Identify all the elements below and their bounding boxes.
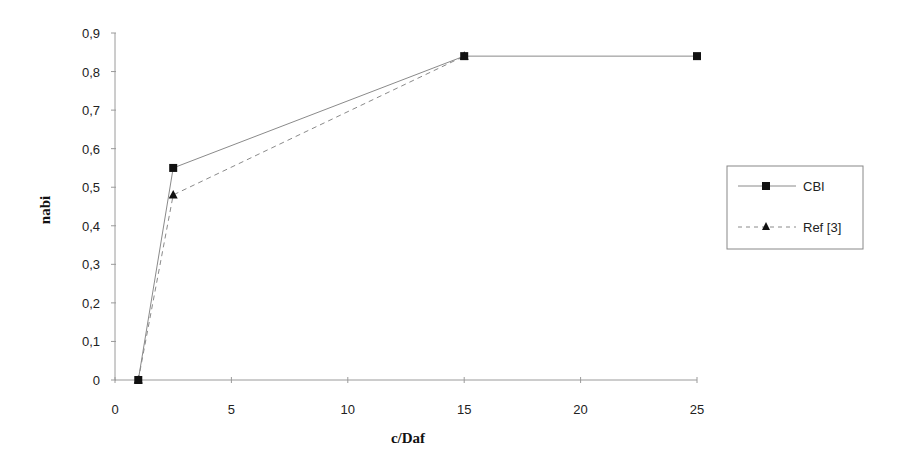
x-axis-title: c/Daf xyxy=(391,430,426,446)
x-axis: 0510152025 xyxy=(111,377,704,417)
y-tick-label: 0,9 xyxy=(82,26,100,41)
x-tick-label: 5 xyxy=(228,402,235,417)
y-tick-label: 0,2 xyxy=(82,296,100,311)
y-axis: 00,10,20,30,40,50,60,70,80,9 xyxy=(82,26,116,388)
y-tick-label: 0 xyxy=(93,373,100,388)
triangle-marker-icon xyxy=(169,190,178,199)
y-tick-label: 0,8 xyxy=(82,65,100,80)
y-tick-label: 0,1 xyxy=(82,334,100,349)
x-tick-label: 20 xyxy=(573,402,587,417)
series-line xyxy=(138,56,697,380)
x-tick-label: 15 xyxy=(457,402,471,417)
square-marker-icon xyxy=(134,376,142,384)
x-tick-label: 0 xyxy=(111,402,118,417)
x-tick-label: 10 xyxy=(341,402,355,417)
series-layer xyxy=(134,51,701,384)
square-marker-icon xyxy=(693,52,701,60)
series-line xyxy=(138,56,464,380)
square-marker-icon xyxy=(169,164,177,172)
square-marker-icon xyxy=(762,182,770,190)
legend-label-ref3: Ref [3] xyxy=(803,220,841,235)
legend-box xyxy=(727,166,863,249)
y-tick-label: 0,5 xyxy=(82,180,100,195)
y-tick-label: 0,4 xyxy=(82,219,100,234)
y-tick-label: 0,3 xyxy=(82,257,100,272)
line-chart: 00,10,20,30,40,50,60,70,80,9 0510152025 … xyxy=(0,0,909,471)
square-marker-icon xyxy=(460,52,468,60)
x-tick-label: 25 xyxy=(690,402,704,417)
legend-label-cbi: CBI xyxy=(803,179,825,194)
legend: CBI Ref [3] xyxy=(727,166,863,249)
y-axis-title: nabi xyxy=(37,196,53,224)
y-tick-label: 0,6 xyxy=(82,142,100,157)
y-tick-label: 0,7 xyxy=(82,103,100,118)
